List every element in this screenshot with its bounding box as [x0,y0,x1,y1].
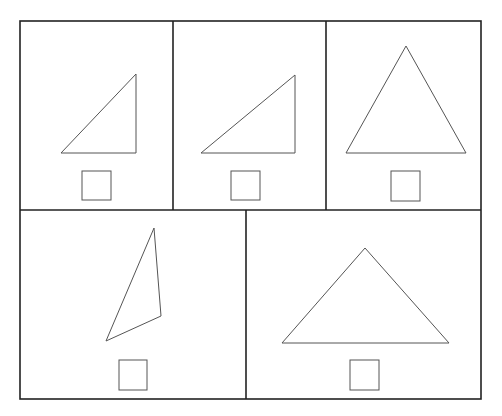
answer-box [119,360,147,390]
panel-4 [106,228,161,390]
answer-box [82,171,111,200]
panel-3 [346,46,466,201]
panel-2 [201,75,295,200]
equilateral-triangle-shape [346,46,466,153]
obtuse-isosceles-triangle-shape [282,248,449,343]
scalene-triangle-shape [106,228,161,341]
panel-1 [61,74,136,200]
answer-box [231,171,260,200]
answer-box [350,360,379,390]
right-triangle-shape [61,74,136,153]
panels [61,46,466,390]
right-triangle-shape [201,75,295,153]
answer-box [391,171,420,201]
panel-5 [282,248,449,390]
diagram-canvas [0,0,502,416]
panel-dividers [20,21,481,399]
